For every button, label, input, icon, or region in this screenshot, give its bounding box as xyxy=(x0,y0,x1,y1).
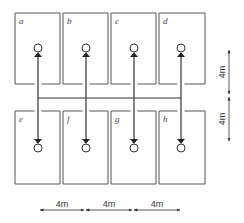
node-circle-icon xyxy=(82,144,90,152)
node-circle-icon xyxy=(177,44,185,52)
room-label: f xyxy=(67,114,71,124)
room-label: d xyxy=(163,16,168,26)
dimension-label: 4m xyxy=(217,113,227,126)
node-circle-icon xyxy=(130,144,138,152)
node-circle-icon xyxy=(82,44,90,52)
floor-plan-diagram: abcdefgh 4m4m4m4m4m xyxy=(0,0,244,223)
room-label: g xyxy=(115,114,120,124)
room-h: h xyxy=(159,111,205,184)
node-circle-icon xyxy=(34,144,42,152)
node-circle-icon xyxy=(177,144,185,152)
node-circle-icon xyxy=(34,44,42,52)
room-d: d xyxy=(159,13,205,84)
dimension-label: 4m xyxy=(56,199,69,209)
dimension-label: 4m xyxy=(103,199,116,209)
room-label: b xyxy=(67,16,72,26)
dimension-label: 4m xyxy=(151,199,164,209)
dimension-label: 4m xyxy=(217,66,227,79)
room-label: c xyxy=(115,16,119,26)
room-label: e xyxy=(19,114,23,124)
node-circle-icon xyxy=(130,44,138,52)
room-label: a xyxy=(19,16,24,26)
room-label: h xyxy=(163,114,168,124)
connections-group xyxy=(38,53,181,143)
